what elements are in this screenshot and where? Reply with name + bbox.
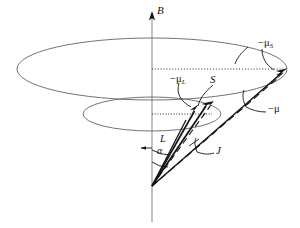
- leader-minus-mu: [246, 107, 266, 112]
- label-J: J: [216, 145, 221, 156]
- label-minus-mu-L-base: −μ: [170, 73, 182, 84]
- leader-minus-mu-S: [262, 49, 274, 70]
- vector-minus-mu-S-arrowhead: [276, 69, 287, 78]
- label-S: S: [210, 74, 216, 85]
- tick-J-cross: [189, 139, 199, 146]
- label-minus-mu: −μ: [268, 104, 280, 115]
- label-minus-mu-S: −μS: [258, 38, 273, 50]
- leader-minus-mu-L: [178, 83, 191, 107]
- vector-J-arrowhead: [207, 101, 214, 109]
- axis-label-B: B: [157, 5, 164, 16]
- leader-J: [197, 152, 214, 154]
- leader-minus-mu-S-tail: [235, 47, 248, 64]
- label-minus-mu-L: −μL: [170, 74, 186, 86]
- vector-model-diagram: [0, 0, 300, 228]
- vector-minus-mu-S-shaft: [152, 74, 281, 187]
- label-alpha: α: [157, 146, 162, 156]
- b-axis: [149, 11, 155, 222]
- label-minus-mu-S-base: −μ: [258, 37, 270, 48]
- vector-minus-mu-L-arrowhead: [190, 105, 199, 115]
- label-L: L: [160, 134, 166, 145]
- figure-canvas: B −μS −μL S −μ L α J: [0, 0, 300, 228]
- label-minus-mu-L-sub: L: [182, 78, 186, 85]
- vector-minus-mu-S: [152, 69, 287, 186]
- label-minus-mu-base: −μ: [268, 103, 280, 114]
- label-minus-mu-S-sub: S: [270, 42, 273, 49]
